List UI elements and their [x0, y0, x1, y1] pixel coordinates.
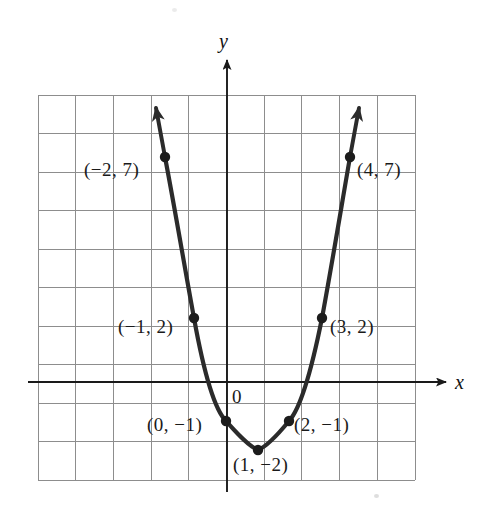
point-label: (−1, 2)	[118, 317, 173, 336]
scan-speck	[374, 494, 379, 498]
graph-figure: x y 0 (−2, 7)(4, 7)(−1, 2)(3, 2)(0, −1)(…	[0, 0, 488, 511]
parabola-right-branch	[258, 157, 350, 450]
parabola-right-arrow	[350, 108, 359, 157]
data-point	[189, 313, 199, 323]
point-label: (4, 7)	[357, 160, 401, 179]
coordinate-plane-svg	[0, 0, 488, 511]
y-axis-label: y	[219, 31, 228, 51]
point-label: (0, −1)	[147, 415, 202, 434]
parabola-left-arrow	[156, 108, 165, 157]
x-axis-label: x	[455, 372, 464, 392]
data-point	[345, 152, 355, 162]
data-point	[221, 416, 231, 426]
data-point	[317, 313, 327, 323]
parabola-curve	[156, 108, 359, 450]
data-point	[284, 416, 294, 426]
origin-label: 0	[232, 387, 242, 406]
axes	[28, 60, 446, 492]
parabola-left-branch	[165, 157, 258, 450]
data-point	[160, 152, 170, 162]
point-label: (1, −2)	[233, 455, 288, 474]
point-label: (3, 2)	[330, 317, 374, 336]
point-label: (−2, 7)	[84, 160, 139, 179]
point-label: (2, −1)	[294, 415, 349, 434]
scan-speck	[172, 8, 177, 12]
